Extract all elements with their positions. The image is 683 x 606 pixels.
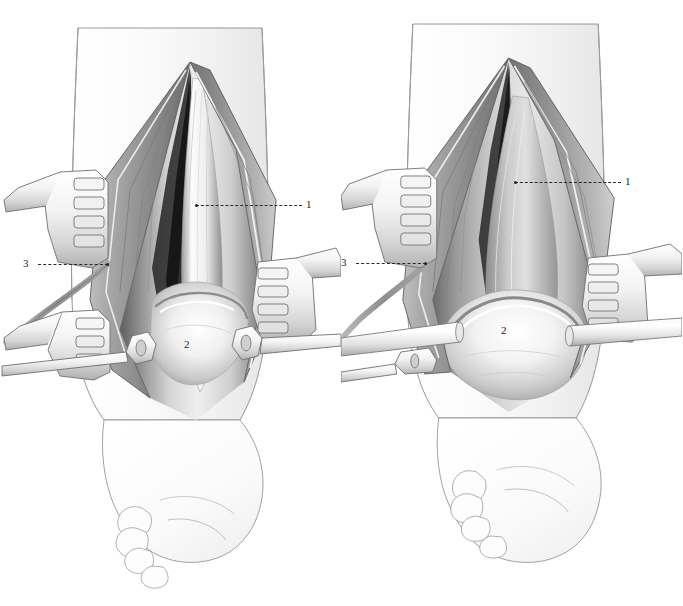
callout-right-3: 3 xyxy=(341,257,347,268)
callout-right-2: 2 xyxy=(501,325,507,336)
leader-tip-right-3 xyxy=(424,262,427,265)
leader-line-right-1 xyxy=(515,182,621,183)
callout-left-3: 3 xyxy=(23,258,29,269)
callout-left-2: 2 xyxy=(184,339,190,350)
rake-retractor-right xyxy=(252,248,341,344)
leader-line-left-1 xyxy=(196,205,302,206)
panel-left xyxy=(0,0,341,606)
leader-tip-right-1 xyxy=(514,181,517,184)
leader-tip-left-3 xyxy=(106,263,109,266)
rake-retractor-upper-left xyxy=(4,170,108,268)
rake-retractor-upper-left xyxy=(341,168,437,268)
surgical-illustration-figure: 1 3 2 1 3 2 xyxy=(0,0,683,606)
foot-outline xyxy=(437,418,601,562)
leader-line-right-3 xyxy=(356,263,426,264)
foot-outline xyxy=(102,420,263,588)
callout-right-1: 1 xyxy=(625,176,631,187)
talar-dome xyxy=(445,290,587,400)
leader-line-left-3 xyxy=(38,264,108,265)
callout-left-1: 1 xyxy=(306,199,312,210)
leader-tip-left-1 xyxy=(195,204,198,207)
panel-right xyxy=(341,0,682,606)
